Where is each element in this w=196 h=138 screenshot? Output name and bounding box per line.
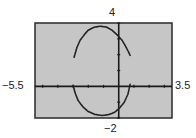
plot-frame [35,23,172,118]
graph-window [0,0,196,138]
